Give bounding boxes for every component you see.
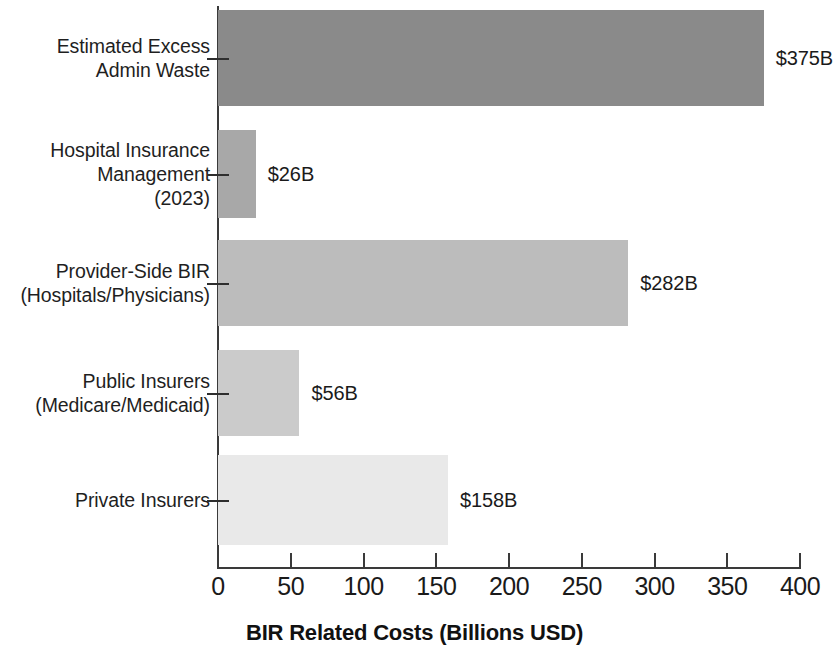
x-axis-tick-label: 50: [277, 572, 304, 601]
y-axis-category-label: Estimated Excess Admin Waste: [57, 34, 210, 82]
x-axis-tick: [217, 553, 219, 568]
x-axis-tick: [508, 553, 510, 568]
x-axis-tick-label: 0: [211, 572, 224, 601]
x-axis-tick: [654, 553, 656, 568]
y-axis-tick: [207, 393, 229, 395]
x-axis-tick-label: 200: [489, 572, 529, 601]
x-axis-tick: [581, 553, 583, 568]
x-axis-tick-label: 350: [707, 572, 747, 601]
bar-value-label: $375B: [776, 47, 833, 70]
x-axis-tick: [799, 553, 801, 568]
y-axis-tick: [207, 500, 229, 502]
x-axis-tick-label: 250: [562, 572, 602, 601]
y-axis-category-label: Private Insurers: [75, 488, 210, 512]
bar-value-label: $282B: [640, 272, 697, 295]
y-axis-category-label: Provider-Side BIR (Hospitals/Physicians): [20, 259, 210, 307]
x-axis-tick: [726, 553, 728, 568]
x-axis-tick-label: 150: [416, 572, 456, 601]
y-axis-tick: [207, 58, 229, 60]
bar: [218, 10, 764, 106]
x-axis-title: BIR Related Costs (Billions USD): [0, 620, 829, 646]
y-axis-tick: [207, 174, 229, 176]
x-axis-tick-label: 100: [343, 572, 383, 601]
bar-value-label: $56B: [311, 382, 357, 405]
bar-value-label: $158B: [460, 489, 517, 512]
bar: [218, 350, 299, 436]
y-axis-category-label: Public Insurers (Medicare/Medicaid): [35, 369, 210, 417]
x-axis-tick-label: 400: [780, 572, 820, 601]
x-axis-tick: [290, 553, 292, 568]
plot-area: [218, 6, 800, 568]
x-axis-tick-label: 300: [634, 572, 674, 601]
y-axis-tick: [207, 283, 229, 285]
y-axis-category-label: Hospital Insurance Management (2023): [50, 138, 210, 210]
bar: [218, 455, 448, 545]
x-axis-tick: [435, 553, 437, 568]
bar-value-label: $26B: [268, 163, 314, 186]
x-axis-tick: [363, 553, 365, 568]
bar: [218, 240, 628, 326]
